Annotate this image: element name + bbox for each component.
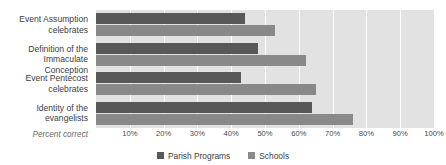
category-label-line: celebrates [0,25,88,36]
axis-tick-label: 60% [291,129,306,138]
bar-group [96,99,434,129]
bar-group [96,69,434,99]
category-label-line: evangelists [0,113,88,124]
bar-schools [96,55,306,66]
axis-tick-label: 10% [122,129,137,138]
legend-swatch-icon [248,152,255,159]
value-axis: 10%20%30%40%50%60%70%80%90%100% [96,129,434,143]
category-label: Event Pentecostcelebrates [0,73,88,94]
axis-caption: Percent correct [0,130,92,139]
axis-tick-label: 90% [393,129,408,138]
category-label-line: Immaculate Conception [0,54,88,75]
legend-item[interactable]: Parish Programs [157,151,230,161]
category-label-line: Definition of the [0,44,88,55]
bar-schools [96,84,316,95]
axis-tick-label: 30% [190,129,205,138]
bar-schools [96,114,353,125]
axis-tick-label: 100% [424,129,443,138]
bar-group [96,10,434,40]
axis-tick-label: 70% [325,129,340,138]
chart-title [0,0,446,7]
legend-label: Parish Programs [168,151,230,161]
axis-tick-label: 50% [257,129,272,138]
bar-chart: Event AssumptioncelebratesDefinition of … [0,0,446,165]
gridline [434,10,435,128]
legend-item[interactable]: Schools [248,151,289,161]
axis-tick-label: 80% [359,129,374,138]
bar-schools [96,25,275,36]
bar-parish-programs [96,43,258,54]
legend-swatch-icon [157,152,164,159]
category-label-line: Identity of the [0,103,88,114]
category-label: Event Assumptioncelebrates [0,14,88,35]
category-label-line: Event Pentecost [0,73,88,84]
bar-group [96,40,434,70]
category-label-line: Event Assumption [0,14,88,25]
bar-parish-programs [96,72,241,83]
bar-parish-programs [96,13,245,24]
category-label: Definition of theImmaculate Conception [0,44,88,76]
bar-parish-programs [96,102,312,113]
category-label-line: celebrates [0,84,88,95]
category-label: Identity of theevangelists [0,103,88,124]
plot-area [96,10,434,128]
category-axis-labels: Event AssumptioncelebratesDefinition of … [0,10,92,128]
axis-tick-label: 40% [224,129,239,138]
chart-legend: Parish ProgramsSchools [0,148,446,163]
legend-label: Schools [259,151,289,161]
axis-tick-label: 20% [156,129,171,138]
